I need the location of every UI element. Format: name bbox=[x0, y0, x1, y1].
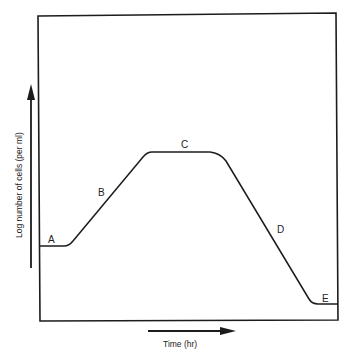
phase-label-a: A bbox=[48, 234, 55, 245]
x-axis-label: Time (hr) bbox=[163, 339, 197, 349]
phase-label-e: E bbox=[322, 293, 329, 304]
phase-label-d: D bbox=[277, 224, 284, 235]
y-axis-label: Log number of cells (per ml) bbox=[14, 132, 24, 238]
y-axis-arrowhead-icon bbox=[27, 84, 35, 100]
growth-curve-diagram: A B C D E Log number of cells (per ml) T… bbox=[0, 0, 349, 357]
phase-label-b: B bbox=[98, 187, 105, 198]
plot-frame bbox=[38, 13, 338, 321]
x-axis-arrowhead-icon bbox=[220, 327, 236, 335]
phase-label-c: C bbox=[181, 139, 188, 150]
growth-curve bbox=[39, 152, 338, 304]
